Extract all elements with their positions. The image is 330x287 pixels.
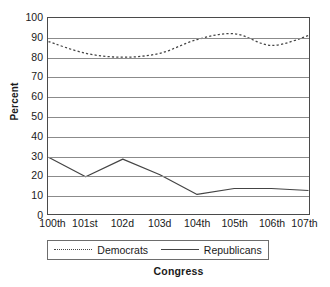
x-axis-tick-labels: 100th101st102d103d104th105th106th107th [47, 217, 310, 233]
y-tick-label: 70 [12, 71, 43, 81]
x-axis-title: Congress [47, 265, 310, 277]
y-tick-label: 50 [12, 111, 43, 121]
gridline [48, 58, 309, 59]
line-chart: Percent 1009080706050403020100 100th101s… [0, 0, 330, 287]
gridline [48, 176, 309, 177]
x-tick-label: 104th [184, 217, 210, 230]
chart-legend: Democrats Republicans [47, 240, 269, 260]
y-tick-label: 60 [12, 91, 43, 101]
y-tick-label: 100 [12, 12, 43, 22]
y-tick-label: 30 [12, 151, 43, 161]
y-tick-label: 40 [12, 131, 43, 141]
x-tick-label: 102d [111, 217, 134, 230]
x-tick-label: 101st [72, 217, 98, 230]
legend-item-republicans: Republicans [161, 244, 262, 256]
legend-swatch-solid-icon [161, 247, 199, 253]
x-tick-label: 107th [291, 217, 317, 230]
y-axis-tick-labels: 1009080706050403020100 [12, 17, 43, 215]
x-tick-label: 100th [39, 217, 65, 230]
legend-item-democrats: Democrats [54, 244, 148, 256]
y-tick-label: 20 [12, 170, 43, 180]
legend-label-democrats: Democrats [97, 244, 148, 256]
legend-swatch-dotted-icon [54, 247, 92, 253]
gridline [48, 117, 309, 118]
legend-label-republicans: Republicans [204, 244, 262, 256]
gridline [48, 97, 309, 98]
gridline [48, 38, 309, 39]
gridline [48, 196, 309, 197]
x-tick-label: 103d [148, 217, 171, 230]
y-tick-label: 80 [12, 52, 43, 62]
y-tick-label: 10 [12, 190, 43, 200]
gridline [48, 77, 309, 78]
gridline [48, 137, 309, 138]
y-tick-label: 0 [12, 210, 43, 220]
gridline [48, 157, 309, 158]
plot-area [47, 17, 310, 215]
x-tick-label: 105th [222, 217, 248, 230]
x-tick-label: 106th [259, 217, 285, 230]
series-layer [48, 18, 309, 214]
y-tick-label: 90 [12, 32, 43, 42]
